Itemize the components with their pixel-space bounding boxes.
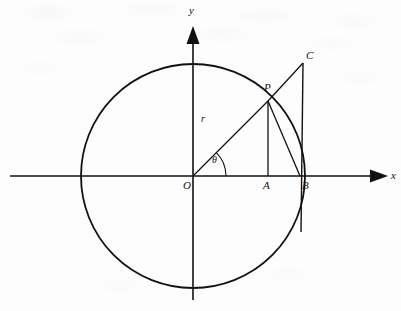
y-axis-arrow-icon [187,26,200,44]
point-label-o: O [183,180,191,191]
segment-bc-tangent [301,63,303,232]
geometry-canvas [0,0,401,311]
x-axis-label: x [391,170,396,181]
point-label-a: A [263,180,270,191]
angle-label-theta: θ [212,155,217,165]
segment-pc-line [268,63,303,101]
y-axis-label: y [189,5,194,16]
geometry-figure: y x O P A B C r θ [0,0,401,311]
point-label-c: C [306,50,313,61]
radius-label-r: r [201,114,205,124]
point-label-p: P [264,82,271,93]
point-label-b: B [302,180,309,191]
x-axis-arrow-icon [370,170,388,183]
angle-theta-arc [216,153,226,176]
